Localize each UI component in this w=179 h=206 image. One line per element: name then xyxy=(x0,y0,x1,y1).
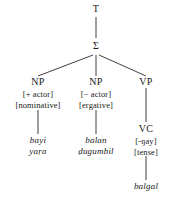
node-vp: VP xyxy=(139,77,152,87)
leaf-np-ergative: balan ḍugumbil xyxy=(78,136,114,156)
leaf-vc-word-1: balgal xyxy=(134,182,158,191)
node-vc-label: VC xyxy=(134,124,158,134)
node-np1-label: NP xyxy=(15,77,60,87)
node-np-nominative: NP [+ actor] [nominative] xyxy=(15,77,60,109)
leaf-np1-word-1: bayi xyxy=(29,136,46,145)
leaf-np1-word-2: yaṛa xyxy=(29,147,46,156)
leaf-np2-word-1: balan xyxy=(78,136,114,145)
node-vc-feature-suffix: [-ŋay] xyxy=(134,137,158,146)
node-np-ergative: NP [− actor] [ergative] xyxy=(79,77,113,109)
node-t: T xyxy=(93,4,99,14)
leaf-vc: balgal xyxy=(134,182,158,191)
node-vc: VC [-ŋay] [tense] xyxy=(134,124,158,156)
syntax-tree-diagram: T Σ NP [+ actor] [nominative] NP [− acto… xyxy=(0,0,179,206)
leaf-np-nominative: bayi yaṛa xyxy=(29,136,46,156)
node-vp-label: VP xyxy=(139,77,152,87)
edge-sigma-np1 xyxy=(38,55,93,76)
node-np1-feature-case: [nominative] xyxy=(15,101,60,110)
node-t-label: T xyxy=(93,4,99,14)
node-sigma-label: Σ xyxy=(93,41,99,51)
leaf-np2-word-2: ḍugumbil xyxy=(78,147,114,156)
node-np2-label: NP xyxy=(79,77,113,87)
node-np1-feature-actor: [+ actor] xyxy=(15,90,60,99)
node-sigma: Σ xyxy=(93,41,99,51)
node-vc-feature-tense: [tense] xyxy=(134,148,158,157)
node-np2-feature-actor: [− actor] xyxy=(79,90,113,99)
node-np2-feature-case: [ergative] xyxy=(79,101,113,110)
edge-sigma-vp xyxy=(99,55,146,76)
